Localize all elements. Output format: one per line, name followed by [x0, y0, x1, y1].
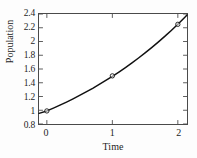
axis-tick-marks — [39, 14, 187, 124]
data-point-marker — [110, 74, 114, 78]
x-axis-label: Time — [38, 141, 188, 152]
y-tick-label: 1.2 — [24, 92, 35, 102]
y-tick-label: 2.2 — [24, 22, 35, 32]
data-layer — [39, 14, 187, 124]
y-tick-label: 1.8 — [24, 50, 35, 60]
y-tick-label: 1 — [30, 106, 35, 116]
y-axis-tick-labels: 0.811.21.41.61.822.22.4 — [0, 13, 35, 125]
x-axis-tick-labels: 012 — [38, 127, 188, 141]
y-tick-label: 0.8 — [24, 120, 35, 130]
data-point-marker — [45, 109, 49, 113]
x-tick-label: 1 — [110, 127, 115, 138]
y-tick-label: 2 — [30, 36, 35, 46]
y-tick-label: 2.4 — [24, 8, 35, 18]
chart-figure: Population 0.811.21.41.61.822.22.4 012 T… — [0, 0, 197, 158]
plot-area — [38, 13, 188, 125]
y-tick-label: 1.6 — [24, 64, 35, 74]
x-tick-label: 0 — [43, 127, 48, 138]
data-point-marker — [176, 22, 180, 26]
x-tick-label: 2 — [176, 127, 181, 138]
y-tick-label: 1.4 — [24, 78, 35, 88]
fitted-curve-line — [39, 15, 187, 113]
data-point-markers — [45, 22, 180, 113]
